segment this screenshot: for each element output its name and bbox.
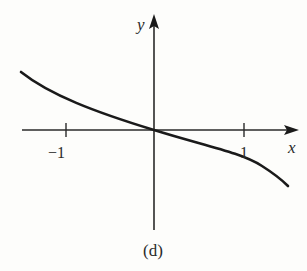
x-tick-label-1: 1 <box>240 144 248 161</box>
x-tick-label-neg1: −1 <box>48 144 65 161</box>
figure-caption: (d) <box>143 241 163 260</box>
graph-figure: y x −1 1 (d) <box>0 0 307 271</box>
x-axis-label: x <box>287 138 296 157</box>
y-axis-label: y <box>135 15 145 34</box>
